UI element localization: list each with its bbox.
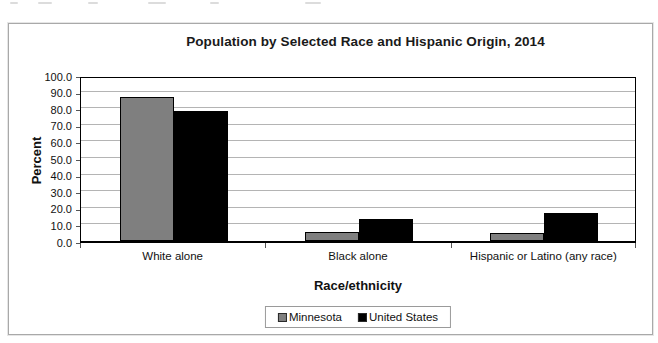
bar-united-states xyxy=(544,213,598,241)
bar-united-states xyxy=(174,111,228,241)
grid-line xyxy=(81,91,635,92)
y-tick-label: 90.0 xyxy=(12,87,72,100)
y-axis: 0.010.020.030.040.050.060.070.080.090.01… xyxy=(9,77,80,243)
bar-minnesota xyxy=(490,233,544,241)
y-tick-label: 20.0 xyxy=(12,203,72,216)
y-tick-label: 80.0 xyxy=(12,104,72,117)
legend-swatch xyxy=(358,313,367,322)
legend-item-united-states: United States xyxy=(358,311,438,323)
x-category-label: White alone xyxy=(142,250,203,262)
y-tick-label: 0.0 xyxy=(12,237,72,250)
y-tick-label: 70.0 xyxy=(12,120,72,133)
y-tick-label: 40.0 xyxy=(12,170,72,183)
bar-minnesota xyxy=(305,232,359,241)
x-tick-mark xyxy=(265,243,266,248)
chart-title: Population by Selected Race and Hispanic… xyxy=(81,34,650,49)
bar-minnesota xyxy=(120,97,174,241)
chart-frame: Population by Selected Race and Hispanic… xyxy=(8,23,653,335)
y-tick-label: 50.0 xyxy=(12,154,72,167)
x-tick-mark xyxy=(635,243,636,248)
legend-swatch xyxy=(278,313,287,322)
legend: MinnesotaUnited States xyxy=(265,306,451,328)
page: Population by Selected Race and Hispanic… xyxy=(0,0,658,343)
legend-item-minnesota: Minnesota xyxy=(278,311,342,323)
x-category-label: Black alone xyxy=(328,250,387,262)
x-category-label: Hispanic or Latino (any race) xyxy=(470,250,617,262)
y-tick-label: 10.0 xyxy=(12,220,72,233)
x-axis-title: Race/ethnicity xyxy=(80,278,636,293)
plot-area xyxy=(80,77,636,243)
y-tick-label: 30.0 xyxy=(12,187,72,200)
x-tick-mark xyxy=(80,243,81,248)
legend-label: United States xyxy=(369,311,438,323)
legend-label: Minnesota xyxy=(289,311,342,323)
x-tick-mark xyxy=(451,243,452,248)
bar-united-states xyxy=(359,219,413,241)
y-tick-label: 60.0 xyxy=(12,137,72,150)
x-axis-category-labels: White aloneBlack aloneHispanic or Latino… xyxy=(80,250,636,266)
y-tick-label: 100.0 xyxy=(12,71,72,84)
